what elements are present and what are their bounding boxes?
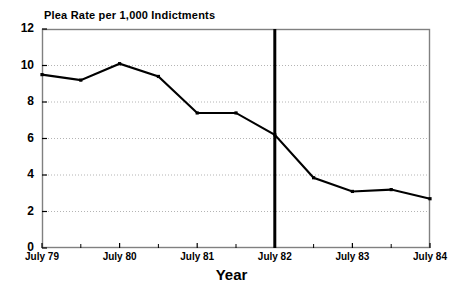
xtick-label-july-81: July 81 [162,251,232,262]
data-point-3 [157,75,160,78]
data-point-1 [79,79,82,82]
ytick-label-10: 10 [8,58,34,72]
xtick-label-july-82: July 82 [240,251,310,262]
data-point-5 [234,111,237,114]
plot-area [0,0,463,293]
axis-frame [43,30,430,248]
ytick-label-4: 4 [8,167,34,181]
data-point-4 [196,111,199,114]
ytick-label-12: 12 [8,21,34,35]
ytick-label-6: 6 [8,131,34,145]
data-point-9 [390,188,393,191]
ytick-label-2: 2 [8,204,34,218]
xtick-label-july-80: July 80 [85,251,155,262]
plot-frame [43,30,430,248]
data-point-10 [428,197,431,200]
series-plea-rate [42,64,430,199]
data-point-2 [118,62,121,65]
ytick-label-8: 8 [8,94,34,108]
data-series-line [42,64,430,199]
data-point-7 [312,176,315,179]
data-point-0 [40,73,43,76]
data-point-markers [40,62,431,200]
x-axis-title: Year [0,266,463,283]
xtick-label-july-79: July 79 [7,251,77,262]
xtick-label-july-84: July 84 [395,251,463,262]
chart-container: Plea Rate per 1,000 Indictments 02468101… [0,0,463,293]
data-point-8 [351,190,354,193]
xtick-label-july-83: July 83 [317,251,387,262]
